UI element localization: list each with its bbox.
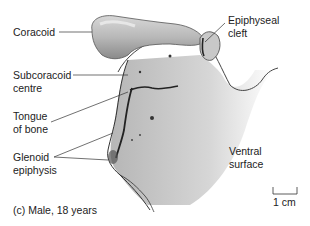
label-epiphyseal-cleft-1: Epiphyseal xyxy=(228,14,279,26)
label-glenoid-2: epiphysis xyxy=(13,164,57,176)
label-glenoid-1: Glenoid xyxy=(13,151,49,163)
label-ventral-1: Ventral xyxy=(229,145,262,157)
label-coracoid: Coracoid xyxy=(13,26,55,38)
label-tongue-2: of bone xyxy=(13,123,48,135)
scale-bar xyxy=(273,187,297,194)
label-tongue-1: Tongue xyxy=(13,110,47,122)
scale-bar-label: 1 cm xyxy=(273,196,296,208)
figure-caption: (c) Male, 18 years xyxy=(13,204,97,216)
label-ventral-2: surface xyxy=(229,158,263,170)
label-subcoracoid-2: centre xyxy=(13,82,42,94)
label-epiphyseal-cleft-2: cleft xyxy=(228,27,247,39)
label-subcoracoid-1: Subcoracoid xyxy=(13,69,71,81)
scapula-body xyxy=(92,16,278,212)
